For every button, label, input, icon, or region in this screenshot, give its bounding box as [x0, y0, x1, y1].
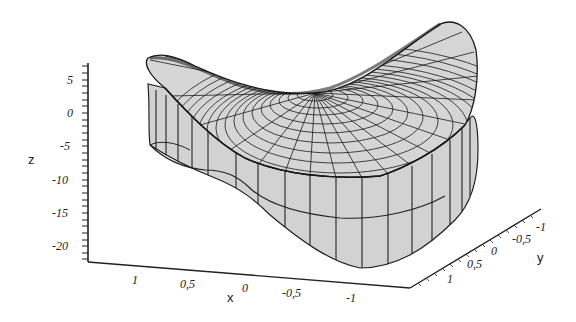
z-tick-label: -15 [52, 206, 68, 220]
x-tick-label: 0,5 [180, 277, 195, 291]
z-tick-label: -20 [52, 239, 68, 253]
z-tick-label: -5 [60, 139, 70, 153]
x-tick-label: -1 [346, 291, 356, 305]
x-tick-label: 1 [132, 273, 138, 287]
z-tick-label: 5 [67, 73, 73, 87]
y-tick-label: 0,5 [467, 257, 482, 271]
y-tick-label: 1 [447, 272, 453, 286]
y-tick-label: -1 [536, 220, 546, 234]
z-tick-label: 0 [67, 106, 73, 120]
x-tick-label: 0 [242, 281, 248, 295]
x-tick-label: -0,5 [282, 286, 301, 300]
y-axis-title: y [537, 250, 544, 265]
surface-plot: 5 0 -5 -10 -15 -20 z 1 0,5 0 -0,5 -1 x 1… [0, 0, 576, 322]
z-tick-label: -10 [52, 173, 68, 187]
y-tick-label: -0,5 [512, 232, 531, 246]
z-axis: 5 0 -5 -10 -15 -20 z [28, 63, 88, 262]
z-axis-title: z [28, 152, 35, 167]
x-axis-title: x [227, 290, 234, 305]
y-tick-label: 0 [491, 244, 497, 258]
